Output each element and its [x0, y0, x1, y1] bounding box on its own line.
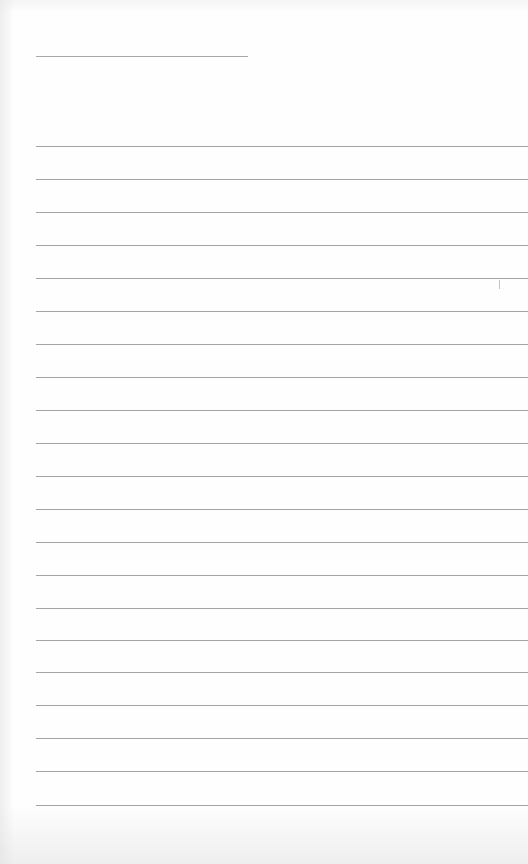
line-input[interactable]	[36, 215, 528, 245]
ruled-line	[36, 179, 528, 180]
line-input[interactable]	[36, 708, 528, 738]
line-input[interactable]	[36, 182, 528, 212]
ruled-line	[36, 738, 528, 739]
ruled-line	[36, 377, 528, 378]
ruled-line	[36, 278, 528, 279]
text-caret	[499, 280, 500, 289]
ruled-line	[36, 476, 528, 477]
ruled-line	[36, 771, 528, 772]
line-input[interactable]	[36, 413, 528, 443]
ruled-line	[36, 344, 528, 345]
ruled-line	[36, 311, 528, 312]
ruled-line	[36, 410, 528, 411]
line-input[interactable]	[36, 642, 528, 672]
line-input[interactable]	[36, 314, 528, 344]
ruled-line	[36, 705, 528, 706]
title-field[interactable]	[36, 36, 248, 54]
line-input[interactable]	[36, 610, 528, 640]
line-input[interactable]	[36, 479, 528, 509]
line-input[interactable]	[36, 578, 528, 608]
ruled-line	[36, 212, 528, 213]
line-input[interactable]	[36, 446, 528, 476]
line-input[interactable]	[36, 116, 528, 146]
line-input[interactable]	[36, 248, 528, 278]
line-input[interactable]	[36, 380, 528, 410]
line-input[interactable]	[36, 675, 528, 705]
ruled-line	[36, 608, 528, 609]
ruled-line	[36, 672, 528, 673]
notepad-page	[0, 0, 528, 864]
line-input[interactable]	[36, 741, 528, 771]
line-input[interactable]	[36, 149, 528, 179]
line-input[interactable]	[36, 281, 528, 311]
line-input[interactable]	[36, 775, 528, 805]
line-input[interactable]	[36, 512, 528, 542]
title-underline	[36, 56, 248, 57]
line-input[interactable]	[36, 545, 528, 575]
ruled-line	[36, 146, 528, 147]
ruled-line	[36, 640, 528, 641]
ruled-line	[36, 805, 528, 806]
line-input[interactable]	[36, 347, 528, 377]
ruled-line	[36, 443, 528, 444]
ruled-line	[36, 575, 528, 576]
ruled-line	[36, 245, 528, 246]
ruled-line	[36, 509, 528, 510]
ruled-line	[36, 542, 528, 543]
